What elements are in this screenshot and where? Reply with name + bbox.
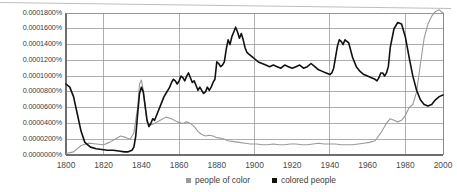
x-tick-label: 1940 <box>310 160 350 170</box>
y-tick-label: 0.0001800% <box>0 9 62 17</box>
legend-item-people-of-color[interactable]: people of color <box>186 176 250 185</box>
y-tick-label: 0.0000400% <box>0 119 62 127</box>
x-tick-label: 1860 <box>159 160 199 170</box>
x-tick-label: 1880 <box>197 160 237 170</box>
y-tick-label: 0.0001000% <box>0 72 62 80</box>
y-tick-label: 0.0001600% <box>0 24 62 32</box>
x-tick-label: 2000 <box>423 160 457 170</box>
chart-legend: people of color colored people <box>186 176 336 185</box>
x-tick-label: 1800 <box>46 160 86 170</box>
legend-label-colored-people: colored people <box>281 176 336 185</box>
gridlines <box>66 13 443 155</box>
legend-label-people-of-color: people of color <box>195 176 250 185</box>
y-tick-label: 0.0000600% <box>0 103 62 111</box>
y-tick-label: 0.0000000% <box>0 151 62 159</box>
x-tick-label: 1960 <box>348 160 388 170</box>
x-tick-label: 1980 <box>385 160 425 170</box>
y-tick-label: 0.0001200% <box>0 56 62 64</box>
y-tick-label: 0.0001400% <box>0 40 62 48</box>
legend-item-colored-people[interactable]: colored people <box>272 176 336 185</box>
legend-swatch-colored-people <box>272 178 277 183</box>
x-tick-label: 1900 <box>235 160 275 170</box>
legend-swatch-people-of-color <box>186 178 191 183</box>
x-tick-label: 1840 <box>121 160 161 170</box>
x-tick-label: 1820 <box>84 160 124 170</box>
y-tick-label: 0.0000200% <box>0 135 62 143</box>
y-tick-label: 0.0000800% <box>0 87 62 95</box>
x-tick-label: 1920 <box>272 160 312 170</box>
